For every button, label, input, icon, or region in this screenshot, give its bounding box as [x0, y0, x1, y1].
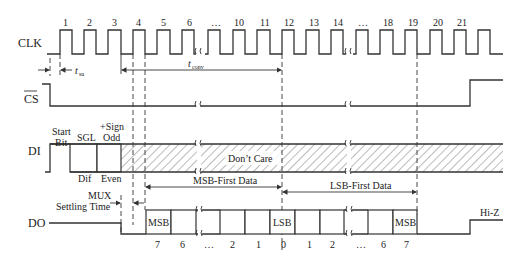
clk-pulse-label: 3	[112, 17, 117, 28]
do-msb-left: MSB	[148, 217, 169, 228]
clk-pulse-label: 14	[333, 17, 343, 28]
cs-waveform	[42, 80, 503, 107]
tconv-indicator: t conv	[122, 58, 281, 70]
do-label: DO	[28, 216, 46, 230]
do-bit-label: 7	[155, 239, 160, 250]
dont-care-label: Don’t Care	[228, 153, 273, 164]
do-bit-label: 6	[381, 239, 386, 250]
tsu-indicator: t su	[38, 65, 84, 77]
do-bit-label: 1	[256, 239, 261, 250]
tconv-subscript: conv	[192, 64, 204, 70]
clk-pulse-label: 11	[260, 17, 270, 28]
timing-diagram: CLK CS DI DO 1 2 3 4 5 6 … 10 11 12 13 1…	[0, 0, 530, 266]
do-msb-right: MSB	[395, 217, 416, 228]
clk-label: CLK	[18, 36, 42, 50]
do-lsb: LSB	[273, 217, 292, 228]
odd-label: Odd	[103, 132, 120, 143]
cs-label: CS	[24, 92, 39, 106]
clk-pulse-label: 10	[234, 17, 244, 28]
clk-waveform	[47, 30, 503, 54]
tsu-label: t	[75, 65, 78, 76]
do-bit-1	[245, 210, 270, 234]
clk-pulse-label: 13	[309, 17, 319, 28]
sign-label: +Sign	[100, 121, 124, 132]
do-bit-label: 1	[307, 239, 312, 250]
do-bit-label: …	[356, 239, 366, 250]
data-range-arrows: MSB-First Data LSB-First Data	[146, 175, 416, 192]
dont-care-region	[121, 144, 503, 172]
settling-time-label: Settling Time	[56, 201, 111, 212]
do-bit-2	[220, 210, 245, 234]
do-bit-label: 2	[230, 239, 235, 250]
clk-pulse-label: 5	[161, 17, 166, 28]
clk-pulse-label: …	[358, 17, 368, 28]
clk-pulse-label: …	[211, 17, 221, 28]
start-bit-label-2: Bit	[55, 137, 67, 148]
do-bit-label: 0	[281, 239, 286, 250]
di-sgl-bit	[70, 144, 97, 172]
clk-pulse-label: 12	[284, 17, 294, 28]
clk-pulse-label: 21	[457, 17, 467, 28]
tconv-label: t	[188, 58, 191, 69]
do-bit-6	[171, 210, 196, 234]
clk-pulse-label: 1	[63, 17, 68, 28]
mux-settling: MUX Settling Time	[56, 190, 144, 234]
do-bit-6b	[368, 210, 393, 234]
di-label: DI	[28, 144, 41, 158]
clk-pulse-labels: 1 2 3 4 5 6 … 10 11 12 13 14 … 18 19 20 …	[63, 17, 467, 28]
clk-pulse-label: 20	[433, 17, 443, 28]
clk-pulse-label: 4	[136, 17, 141, 28]
do-hiz: Hi-Z	[480, 207, 499, 218]
clk-pulse-label: 6	[187, 17, 192, 28]
start-bit-label-1: Start	[52, 126, 71, 137]
do-bit-label: …	[204, 239, 214, 250]
do-bit-1b	[295, 210, 320, 234]
tsu-subscript: su	[79, 71, 84, 77]
lsb-first-label: LSB-First Data	[330, 180, 392, 191]
di-sign-bit	[97, 144, 121, 172]
do-bit-label: 6	[180, 239, 185, 250]
clk-pulse-label: 2	[87, 17, 92, 28]
clk-pulse-label: 19	[408, 17, 418, 28]
clk-pulse-label: 18	[383, 17, 393, 28]
do-bit-2b	[320, 210, 344, 234]
even-label: Even	[101, 173, 122, 184]
mux-label: MUX	[88, 190, 112, 201]
do-bit-label: 7	[404, 239, 409, 250]
msb-first-label: MSB-First Data	[193, 175, 258, 186]
dif-label: Dif	[78, 173, 92, 184]
do-bit-label: 2	[330, 239, 335, 250]
sgl-label: SGL	[77, 132, 96, 143]
